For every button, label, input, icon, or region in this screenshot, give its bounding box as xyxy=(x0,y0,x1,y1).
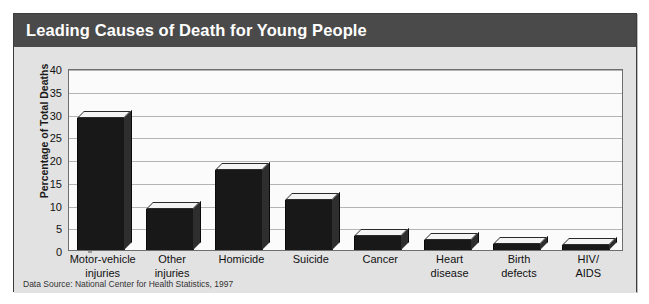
bar[interactable] xyxy=(77,111,131,250)
x-axis-tick-label: HIV/AIDS xyxy=(547,253,630,280)
y-axis-tick-label: 35 xyxy=(50,87,62,99)
x-axis-tick-label-line: HIV/ xyxy=(547,253,630,267)
bar[interactable] xyxy=(424,233,478,250)
y-axis-tick-label: 30 xyxy=(50,110,62,122)
bar-side-face xyxy=(124,110,132,250)
bar[interactable] xyxy=(285,193,339,250)
x-axis-tick-label-line: AIDS xyxy=(547,267,630,281)
bar-side-face xyxy=(332,192,340,250)
x-axis-tick-label-line: injuries xyxy=(130,267,213,281)
y-axis-tick-label: 15 xyxy=(50,178,62,190)
y-axis-tick-label: 20 xyxy=(50,155,62,167)
y-axis-tick-labels: 0510152025303540 xyxy=(38,69,62,251)
bar-front-face xyxy=(493,244,541,250)
bar[interactable] xyxy=(354,229,408,250)
bar[interactable] xyxy=(562,238,616,250)
bar-front-face xyxy=(562,245,610,250)
bar-top-face xyxy=(493,237,547,244)
bar-top-face xyxy=(77,111,131,118)
source-note: Data Source: National Center for Health … xyxy=(23,279,233,289)
bar-front-face xyxy=(424,240,472,250)
chart-body: Percentage of Total Deaths 0510152025303… xyxy=(14,47,636,293)
bar-front-face xyxy=(285,200,333,250)
y-axis-tick-label: 25 xyxy=(50,132,62,144)
chart-title-bar: Leading Causes of Death for Young People xyxy=(14,14,636,47)
bar[interactable] xyxy=(493,237,547,250)
bar[interactable] xyxy=(146,202,200,250)
y-axis-tick-label: 5 xyxy=(56,223,62,235)
bar-top-face xyxy=(285,193,339,200)
bar-top-face xyxy=(424,233,478,240)
bar-front-face xyxy=(77,118,125,250)
bar-top-face xyxy=(146,202,200,209)
y-axis-tick-label: 40 xyxy=(50,64,62,76)
bars-layer xyxy=(69,70,622,250)
bar-side-face xyxy=(193,201,201,250)
bar-front-face xyxy=(146,209,194,250)
bar-front-face xyxy=(354,236,402,250)
bar-front-face xyxy=(215,170,263,250)
page-title: Leading Causes of Death for Young People xyxy=(14,21,367,40)
chart-figure: Leading Causes of Death for Young People… xyxy=(13,13,637,292)
bar-side-face xyxy=(262,162,270,250)
bar[interactable] xyxy=(215,163,269,250)
y-axis-tick-label: 10 xyxy=(50,201,62,213)
plot-area xyxy=(68,69,623,251)
